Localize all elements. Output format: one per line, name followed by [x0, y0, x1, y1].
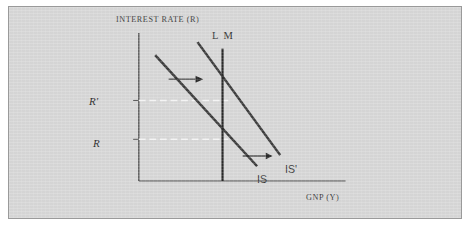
is-curve-label: IS [257, 174, 267, 185]
y-axis-title: INTEREST RATE (R) [116, 16, 199, 24]
figure-page: INTEREST RATE (R) GNP (Y) R' R L M IS IS… [0, 0, 470, 228]
figure-panel: INTEREST RATE (R) GNP (Y) R' R L M IS IS… [8, 6, 462, 219]
is-prime-curve-label: IS' [285, 164, 297, 175]
y-tick-label-r: R [93, 138, 100, 149]
is-lm-plot [9, 7, 461, 218]
is-curve [155, 55, 257, 166]
lm-curve-label: L M [212, 31, 234, 42]
is-prime-curve [197, 42, 280, 155]
y-tick-label-r-prime: R' [89, 96, 98, 107]
x-axis-title: GNP (Y) [306, 194, 339, 202]
